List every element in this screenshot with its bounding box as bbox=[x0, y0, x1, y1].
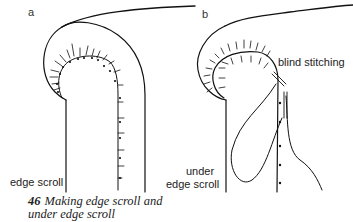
thread-tail-b bbox=[286, 96, 322, 190]
caption-line-1: Making edge scroll and bbox=[45, 194, 163, 208]
stitches-a bbox=[50, 44, 124, 178]
fabric-top-line-b bbox=[225, 5, 353, 26]
needle-b bbox=[272, 72, 286, 86]
inner-arch-a bbox=[59, 56, 118, 190]
caption-line-2: under edge scroll bbox=[28, 208, 162, 221]
figure-caption: 46Making edge scroll and under edge scro… bbox=[28, 195, 162, 221]
stitch-dots-b bbox=[279, 102, 281, 184]
needle-shaft-b bbox=[284, 92, 287, 118]
outer-roll-b bbox=[197, 26, 226, 100]
panel-label-b: b bbox=[202, 8, 208, 20]
label-under: under bbox=[186, 165, 214, 177]
outer-arch-a bbox=[62, 22, 145, 192]
outer-roll-a bbox=[44, 27, 66, 100]
caption-number: 46 bbox=[28, 194, 41, 208]
label-edge-scroll: edge scroll bbox=[10, 176, 63, 188]
panel-label-a: a bbox=[28, 6, 34, 18]
fabric-top-line-a bbox=[62, 6, 195, 27]
label-under-edge-scroll: edge scroll bbox=[166, 178, 219, 190]
thread-loop-b bbox=[231, 84, 282, 182]
label-blind-stitching: blind stitching bbox=[278, 56, 345, 68]
